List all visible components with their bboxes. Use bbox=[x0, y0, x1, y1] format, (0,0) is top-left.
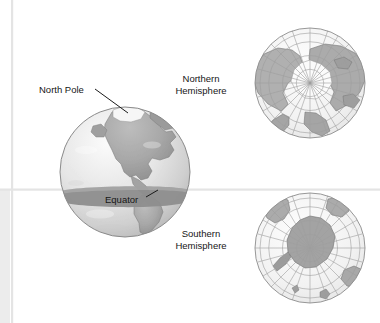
hemispheres-figure: North Pole Equator NorthernHemisphere So… bbox=[0, 0, 380, 323]
southern-hemisphere-label-line1: Southern bbox=[182, 228, 221, 239]
horizontal-guide-rule bbox=[0, 189, 380, 191]
graticule-meridians-south bbox=[255, 193, 365, 303]
northern-hemisphere-polar-map bbox=[253, 28, 366, 138]
north-pole-label: North Pole bbox=[39, 84, 84, 96]
southern-hemisphere-label: SouthernHemisphere bbox=[168, 228, 234, 251]
southern-hemisphere-label-line2: Hemisphere bbox=[175, 240, 226, 251]
southern-hemisphere-polar-map bbox=[255, 193, 365, 303]
northern-hemisphere-label-line2: Hemisphere bbox=[175, 85, 226, 96]
northern-hemisphere-label: NorthernHemisphere bbox=[168, 73, 234, 96]
northern-hemisphere-label-line1: Northern bbox=[183, 73, 220, 84]
figure-canvas bbox=[0, 0, 380, 323]
vertical-guide-rule bbox=[11, 0, 13, 323]
equator-label: Equator bbox=[105, 194, 138, 206]
earth-globe-perspective bbox=[60, 89, 190, 237]
left-panel-strip bbox=[0, 190, 10, 323]
graticule-meridians bbox=[255, 28, 365, 138]
